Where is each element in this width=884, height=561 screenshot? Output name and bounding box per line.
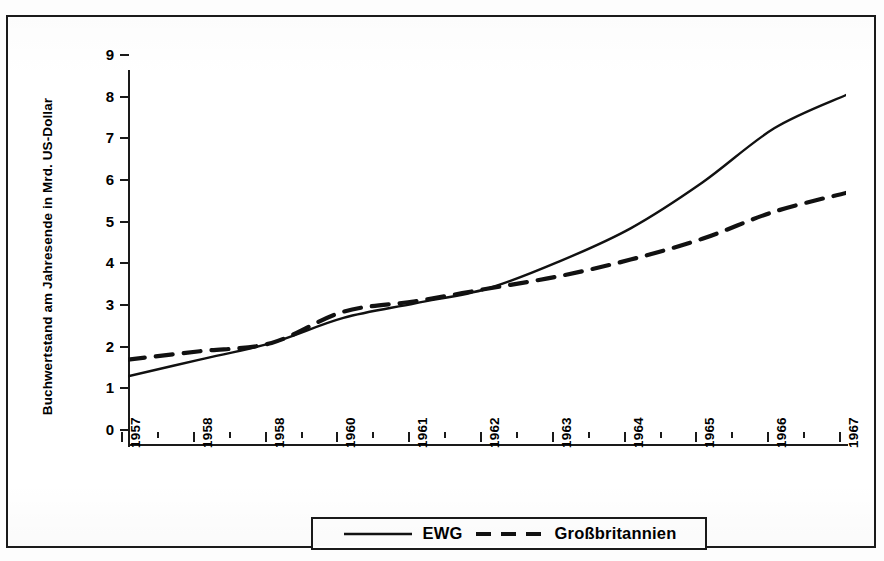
y-axis-tick xyxy=(120,54,129,56)
y-axis-tick-label: 7 xyxy=(84,130,114,145)
x-axis-tick-label: 1967 xyxy=(846,417,861,448)
y-axis-tick-label: 3 xyxy=(84,297,114,312)
y-axis-tick-label: 8 xyxy=(84,89,114,104)
y-axis-tick-label: 6 xyxy=(84,172,114,187)
chart-legend: EWGGroßbritannien xyxy=(311,517,707,550)
series-line-gro-britannien xyxy=(128,193,846,360)
y-axis-tick-label: 5 xyxy=(84,214,114,229)
legend-item: EWG xyxy=(342,524,463,543)
dashed-line-swatch-icon xyxy=(474,528,546,540)
y-axis-tick-label: 0 xyxy=(84,422,114,437)
legend-label: Großbritannien xyxy=(555,524,677,543)
y-axis-tick-label: 1 xyxy=(84,380,114,395)
figure-frame: Buchwertstand am Jahresende in Mrd. US-D… xyxy=(6,15,876,548)
solid-line-swatch-icon xyxy=(342,528,414,540)
chart-figure: Buchwertstand am Jahresende in Mrd. US-D… xyxy=(0,0,884,561)
legend-item: Großbritannien xyxy=(474,524,677,543)
y-axis-tick-label: 9 xyxy=(84,47,114,62)
y-axis-tick-label: 4 xyxy=(84,255,114,270)
x-axis-tick xyxy=(121,432,123,442)
plot-curves xyxy=(128,70,846,445)
legend-label: EWG xyxy=(423,524,463,543)
y-axis-tick-label: 2 xyxy=(84,339,114,354)
series-line-ewg xyxy=(128,95,846,376)
y-axis-title: Buchwertstand am Jahresende in Mrd. US-D… xyxy=(40,57,55,457)
